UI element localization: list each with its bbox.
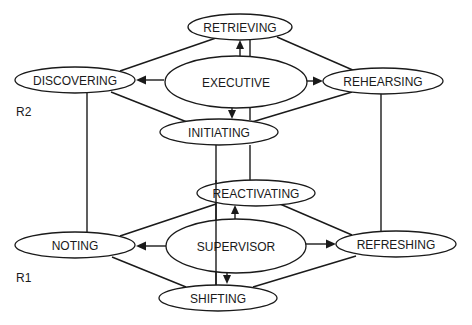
edge-shifting-noting: [112, 257, 186, 287]
node-label-noting: NOTING: [52, 239, 99, 253]
arrowhead-to-rehearsing: [313, 77, 323, 86]
node-supervisor: SUPERVISOR: [166, 219, 306, 273]
arrowhead-to-discovering: [136, 76, 146, 85]
cognitive-process-diagram: RETRIEVING EXECUTIVE DISCOVERING REHEARS…: [0, 0, 472, 325]
node-label-executive: EXECUTIVE: [202, 76, 270, 90]
node-label-retrieving: RETRIEVING: [203, 21, 276, 35]
node-executive: EXECUTIVE: [165, 56, 307, 108]
node-refreshing: REFRESHING: [336, 231, 456, 257]
node-noting: NOTING: [15, 232, 135, 258]
arrowhead-to-noting: [136, 242, 146, 251]
node-label-initiating: INITIATING: [188, 126, 250, 140]
node-label-discovering: DISCOVERING: [33, 74, 117, 88]
node-shifting: SHIFTING: [159, 285, 277, 311]
arrowhead-to-refreshing: [326, 240, 336, 249]
node-initiating: INITIATING: [160, 119, 278, 145]
node-retrieving: RETRIEVING: [188, 14, 292, 40]
node-label-reactivating: REACTIVATING: [213, 187, 300, 201]
node-rehearsing: REHEARSING: [323, 68, 443, 94]
region-label-r2: R2: [16, 105, 32, 119]
region-label-r1: R1: [16, 271, 32, 285]
node-discovering: DISCOVERING: [15, 67, 135, 93]
arrowhead-to-reactivating: [231, 205, 239, 214]
arrowhead-to-retrieving: [236, 40, 244, 49]
node-label-shifting: SHIFTING: [190, 292, 246, 306]
node-label-rehearsing: REHEARSING: [343, 75, 422, 89]
node-label-refreshing: REFRESHING: [357, 238, 436, 252]
arrowhead-to-initiating: [228, 110, 236, 119]
node-reactivating: REACTIVATING: [197, 180, 315, 206]
arrowhead-to-shifting: [223, 275, 231, 284]
node-label-supervisor: SUPERVISOR: [197, 240, 276, 254]
